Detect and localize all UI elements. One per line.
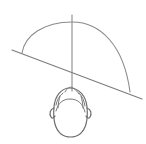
dome-arc (22, 22, 130, 92)
drawing-canvas (0, 0, 146, 144)
hairline-arch (56, 99, 85, 112)
line-drawing-figure (0, 0, 146, 144)
head-outline (54, 88, 87, 137)
